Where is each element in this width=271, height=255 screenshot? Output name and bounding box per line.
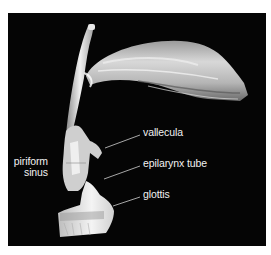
piriform-sinus-shape xyxy=(63,125,102,191)
vocal-tract-3d-render xyxy=(8,13,266,246)
anatomy-image-frame: piriform sinus vallecula epilarynx tube … xyxy=(8,13,266,246)
epilarynx-tube-label: epilarynx tube xyxy=(143,158,207,169)
vallecula-label: vallecula xyxy=(143,127,183,138)
epilarynx-leader-line xyxy=(104,166,140,179)
oral-cavity-shape xyxy=(86,41,248,101)
pharynx-shape xyxy=(66,24,95,135)
piriform-sinus-label-line2: sinus xyxy=(10,167,48,178)
piriform-sinus-label: piriform sinus xyxy=(10,156,48,178)
vallecula-leader-line xyxy=(105,135,140,148)
glottis-leader-line xyxy=(113,197,140,206)
glottis-label: glottis xyxy=(143,189,170,200)
larynx-shape xyxy=(58,181,114,237)
